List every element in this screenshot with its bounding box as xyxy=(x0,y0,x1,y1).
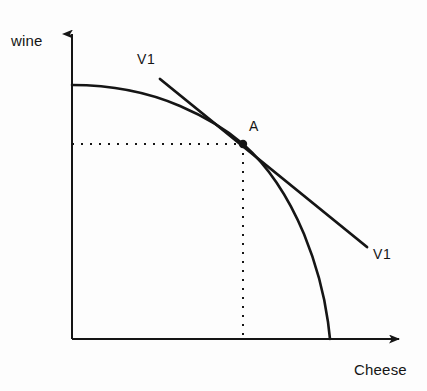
tangent-line-v1 xyxy=(160,79,367,247)
tangency-point-marker xyxy=(239,140,247,148)
x-axis-title: Cheese xyxy=(354,362,407,377)
y-axis-title: wine xyxy=(11,33,43,48)
production-possibility-frontier-curve xyxy=(72,85,330,339)
tangency-point-label: A xyxy=(249,119,258,133)
tangent-line-label-lower: V1 xyxy=(373,247,391,261)
tangent-line-label-upper: V1 xyxy=(137,52,155,66)
diagram-canvas xyxy=(0,0,427,391)
ppf-tangency-diagram: wine Cheese V1 V1 A xyxy=(0,0,427,391)
